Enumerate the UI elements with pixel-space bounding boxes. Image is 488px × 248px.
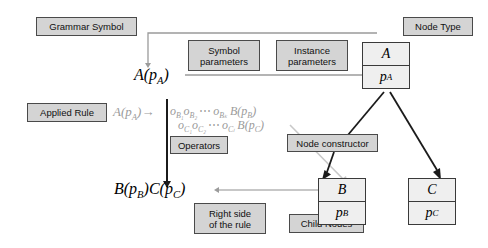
- expr-right-side: B(pB)C(pC): [114, 180, 185, 200]
- expr-symbol-close: ): [164, 66, 169, 83]
- diagram-canvas: Grammar Symbol Node Type Symbol paramete…: [0, 0, 488, 248]
- node-b-param: pB: [319, 202, 365, 225]
- expr-rs-c-param: p: [165, 180, 173, 197]
- label-instance-parameters: Instance parameters: [276, 40, 348, 71]
- node-box-a: A pA: [362, 42, 410, 89]
- label-right-side: Right side of the rule: [194, 203, 266, 234]
- node-c-param: pC: [409, 202, 455, 225]
- expr-rule-lhs: A(pA)→: [113, 104, 154, 122]
- connector-rule-to-rightside: [166, 99, 168, 183]
- node-box-c: C pC: [408, 178, 456, 225]
- expr-rs-b-param: p: [129, 180, 137, 197]
- expr-rule-arrow: →: [141, 104, 154, 119]
- node-b-type-text: B: [338, 182, 347, 198]
- expr-symbol-param: p: [149, 66, 157, 83]
- node-box-b: B pB: [318, 178, 366, 225]
- node-b-param-sub: B: [343, 208, 349, 218]
- expr-line2-result: B: [234, 118, 244, 132]
- node-b-param-text: p: [336, 205, 343, 221]
- expr-line2-ellipsis: ⋯: [206, 118, 222, 132]
- expr-rule-line2: oC₁oC₂⋯oCₗB(pC): [178, 118, 264, 134]
- label-node-type: Node Type: [403, 17, 473, 36]
- node-a-param: pA: [363, 66, 409, 89]
- expr-rs-c: C: [149, 180, 160, 197]
- expr-rs-b: B: [114, 180, 124, 197]
- expr-grammar-symbol: A(pA): [134, 66, 169, 86]
- arrowhead-rightside-left: [214, 187, 219, 193]
- tree-edge-a-to-c: [390, 92, 437, 170]
- node-a-type-text: A: [382, 46, 391, 62]
- expr-rs-c-param-sub: C: [173, 189, 180, 200]
- node-c-type-text: C: [427, 182, 436, 198]
- node-b-type: B: [319, 179, 365, 202]
- node-a-param-text: p: [380, 69, 387, 85]
- expr-line2-op1-sub: C₁: [184, 125, 192, 134]
- node-a-type: A: [363, 43, 409, 66]
- expr-line1-ellipsis: ⋯: [197, 104, 213, 118]
- label-symbol-parameters: Symbol parameters: [188, 40, 260, 71]
- node-c-param-text: p: [425, 205, 432, 221]
- expr-line2-op2-sub: C₂: [198, 125, 206, 134]
- expr-line2-close: ): [260, 118, 264, 132]
- expr-line1-result: B: [227, 104, 237, 118]
- node-c-param-sub: C: [432, 208, 438, 218]
- expr-rs-c-close: ): [180, 180, 185, 197]
- expr-rule-lhs-head: A: [113, 104, 121, 119]
- label-node-constructor: Node constructor: [287, 134, 378, 152]
- expr-line1-close: ): [252, 104, 256, 118]
- label-grammar-symbol: Grammar Symbol: [36, 17, 137, 36]
- node-a-param-sub: A: [387, 72, 393, 82]
- label-applied-rule: Applied Rule: [27, 103, 107, 122]
- expr-symbol-head: A: [134, 66, 144, 83]
- node-c-type: C: [409, 179, 455, 202]
- tree-edge-a-to-b-lower: [327, 152, 334, 172]
- label-operators: Operators: [170, 136, 228, 154]
